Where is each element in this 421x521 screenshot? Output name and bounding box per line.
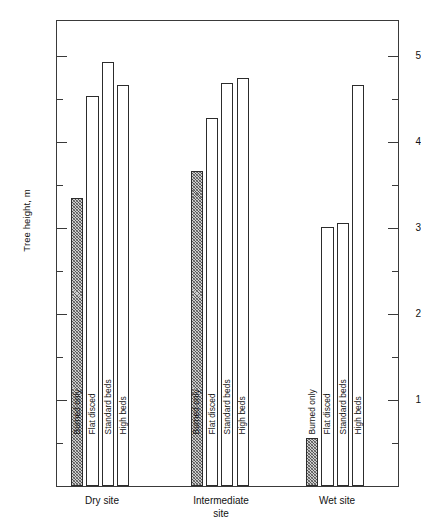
bar — [191, 171, 203, 487]
y-tick-right-4-5 — [392, 99, 399, 100]
bar — [306, 438, 318, 486]
y-tick-right-0-5 — [392, 443, 399, 444]
y-tick-right-2-5 — [392, 271, 399, 272]
y-axis-title: Tree height, m — [21, 151, 32, 291]
y-tick-label-5: 5 — [375, 51, 421, 61]
y-tick-label-2: 2 — [375, 309, 421, 319]
y-tick-left-0-5 — [56, 443, 63, 444]
x-axis-group-label: Intermediate site — [171, 495, 271, 520]
y-tick-label-4: 4 — [375, 137, 421, 147]
bar — [237, 78, 249, 487]
bar — [221, 83, 233, 486]
tree-height-bar-chart: Tree height, m 12345 Burned onlyFlat dis… — [0, 0, 421, 521]
bar — [86, 96, 98, 486]
y-tick-label-3: 3 — [375, 223, 421, 233]
bar — [71, 198, 83, 486]
bar — [352, 85, 364, 487]
y-tick-left-1-5 — [56, 357, 63, 358]
y-tick-left-2 — [56, 314, 67, 315]
x-axis-group-label: Dry site — [52, 495, 152, 508]
y-tick-left-3-5 — [56, 185, 63, 186]
y-tick-left-1 — [56, 400, 67, 401]
y-tick-right-3-5 — [392, 185, 399, 186]
y-tick-left-4 — [56, 142, 67, 143]
y-tick-left-3 — [56, 228, 67, 229]
bar — [102, 62, 114, 486]
bar — [117, 85, 129, 487]
x-axis-group-label: Wet site — [287, 495, 387, 508]
y-tick-left-5 — [56, 56, 67, 57]
y-tick-right-1-5 — [392, 357, 399, 358]
bar — [321, 227, 333, 487]
y-tick-label-1: 1 — [375, 395, 421, 405]
y-tick-left-4-5 — [56, 99, 63, 100]
bar — [337, 223, 349, 486]
y-tick-left-2-5 — [56, 271, 63, 272]
bar — [206, 118, 218, 486]
